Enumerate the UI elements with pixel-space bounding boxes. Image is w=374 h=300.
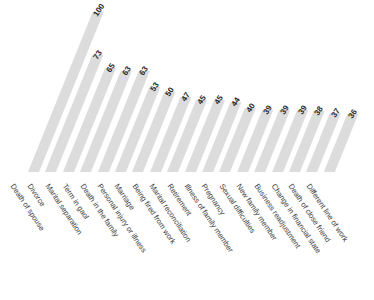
bar (185, 100, 196, 172)
bar (219, 108, 230, 172)
bar (150, 97, 161, 172)
bar (115, 87, 126, 172)
bar (306, 113, 317, 172)
bar (63, 68, 74, 172)
stress-scale-bar-chart: 1007365636353504745454440393939383736 De… (0, 0, 374, 300)
bar (202, 102, 213, 172)
bar (28, 12, 39, 172)
bar (80, 71, 91, 172)
bar (254, 110, 265, 172)
bar (98, 71, 109, 172)
plot-area: 1007365636353504745454440393939383736 (0, 0, 374, 180)
bar (45, 55, 56, 172)
bar-fill (324, 114, 358, 172)
bar (324, 114, 335, 172)
bar (289, 111, 300, 172)
category-axis-labels: Death of spouseDivorceMarital separation… (0, 180, 374, 300)
bar (167, 100, 178, 172)
bar (237, 110, 248, 172)
bar (132, 92, 143, 172)
bar (272, 110, 283, 172)
